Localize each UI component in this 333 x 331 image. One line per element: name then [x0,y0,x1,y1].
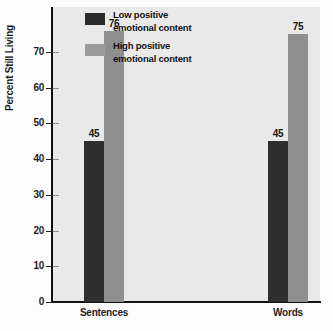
y-tick-mark [46,302,52,303]
y-tick-label: 70 [18,46,44,57]
legend-item-low: Low positive emotional content [85,9,235,40]
bar [84,141,104,302]
bar [288,34,308,302]
legend-swatch-high-icon [85,44,105,56]
y-tick-mark [46,88,52,89]
x-category-label: Sentences [54,307,154,318]
y-tick-label: 50 [18,117,44,128]
y-tick-mark-inner [53,266,59,267]
y-tick-mark [46,195,52,196]
y-tick-mark [46,159,52,160]
legend-label-low-line1: Low positive [113,9,168,20]
bar [104,31,124,302]
legend-label-low: Low positive emotional content [113,9,191,34]
legend-label-high-line1: High positive [113,40,170,51]
legend-item-high: High positive emotional content [85,40,235,71]
y-tick-mark-inner [53,231,59,232]
y-tick-mark-inner [53,123,59,124]
x-category-label: Words [238,307,333,318]
legend-label-high-line2: emotional content [113,53,191,64]
legend-swatch-low-icon [85,13,105,25]
y-tick-label: 20 [18,225,44,236]
y-tick-mark [46,231,52,232]
y-tick-label: 0 [18,296,44,307]
y-tick-mark-inner [53,52,59,53]
legend-label-low-line2: emotional content [113,22,191,33]
bar-value-label: 75 [282,21,314,32]
y-tick-mark [46,52,52,53]
y-tick-label: 10 [18,260,44,271]
y-tick-mark [46,266,52,267]
bar [268,141,288,302]
y-tick-mark-inner [53,159,59,160]
y-tick-mark-inner [53,88,59,89]
y-axis-title: Percent Still Living [2,8,18,128]
legend-label-high: High positive emotional content [113,40,191,65]
chart-legend: Low positive emotional content High posi… [85,9,235,71]
y-tick-mark-inner [53,195,59,196]
y-tick-label: 60 [18,82,44,93]
bar-chart-figure: Percent Still Living 706050403020100 457… [0,0,333,331]
y-tick-label: 40 [18,153,44,164]
y-tick-label: 30 [18,189,44,200]
y-tick-mark [46,123,52,124]
